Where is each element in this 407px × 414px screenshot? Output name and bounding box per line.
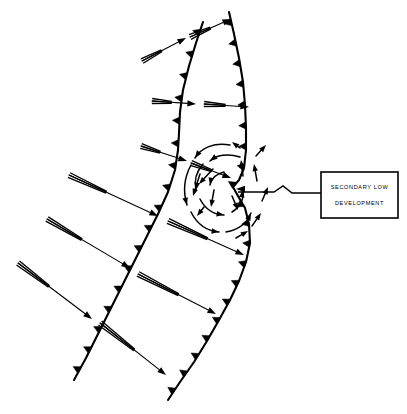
wind-arrow-head: [207, 307, 216, 314]
wind-arrow-head: [235, 249, 244, 255]
cold-front-barb: [172, 117, 179, 124]
callout-label-line1: SECONDARY LOW: [331, 184, 389, 190]
wind-arrow-tail-stroke: [18, 263, 49, 287]
wind-arrow-tail-stroke: [68, 177, 106, 193]
circ-arc-inner-top-head: [210, 154, 218, 161]
wind-arrow-9: [46, 217, 130, 268]
wind-arrow-tail-stroke: [138, 274, 179, 295]
wind-arrow-tail-stroke: [169, 219, 208, 238]
weather-front-canvas: SECONDARY LOW DEVELOPMENT: [0, 0, 407, 414]
circ-radial-4: [232, 196, 238, 210]
wind-arrow-tail-stroke: [137, 276, 178, 295]
wind-arrow-8: [167, 219, 244, 255]
cold-front-barb: [175, 95, 183, 102]
circ-arc-inner-upper-left-head: [209, 177, 215, 185]
circ-radial-2-head: [193, 188, 198, 196]
wind-arrow-head: [149, 210, 158, 216]
circ-radial-6: [253, 164, 258, 181]
cold-front-barb: [229, 39, 237, 46]
circ-radial-11: [232, 142, 240, 148]
circ-radial-3-shaft: [212, 190, 214, 200]
weather-diagram: SECONDARY LOW DEVELOPMENT: [0, 0, 407, 414]
wind-arrow-11: [16, 261, 92, 319]
circ-radial-8-head: [255, 213, 261, 220]
circ-arc-outer-bottomleft-head: [211, 228, 219, 234]
callout-pointer-line: [238, 186, 321, 193]
wind-arrow-tail-stroke: [20, 261, 50, 286]
circ-arc-outer-topleft: [195, 144, 230, 158]
wind-arrow-tail-stroke: [47, 219, 82, 240]
cold-front-barb: [239, 122, 246, 129]
wind-arrow-head: [187, 100, 196, 106]
circ-radial-12: [197, 207, 204, 216]
cold-front-barb: [243, 240, 251, 247]
circ-radial-7-shaft: [262, 194, 265, 201]
wind-arrow-tail-stroke: [16, 265, 48, 287]
wind-arrow-tail-stroke: [98, 325, 133, 351]
wind-arrow-tail-stroke: [48, 217, 82, 239]
wind-arrow-head: [121, 261, 130, 268]
cold-front-barb: [171, 140, 178, 147]
wind-arrow-1: [141, 38, 186, 63]
circ-arc-outer-left-head: [182, 197, 187, 205]
circ-radial-4-shaft: [232, 196, 235, 203]
wind-arrow-tail-stroke: [46, 221, 82, 240]
circ-radial-6-head: [253, 164, 258, 172]
circ-radial-6-shaft: [255, 171, 257, 181]
wind-arrow-head: [157, 367, 166, 375]
circ-radial-8: [252, 213, 261, 226]
wind-arrow-head: [83, 311, 92, 319]
circ-radial-8-shaft: [252, 219, 257, 226]
circ-radial-9-shaft: [236, 235, 242, 238]
wind-arrow-10: [137, 272, 216, 314]
callout-box-border: [321, 172, 398, 218]
circ-radial-3-head: [210, 199, 215, 207]
circ-radial-10-shaft: [256, 150, 261, 156]
front-lines-group: [73, 12, 250, 400]
wind-arrow-tail-stroke: [102, 321, 135, 349]
cold-front-barb: [169, 162, 177, 169]
circ-radial-12-shaft: [201, 207, 204, 210]
wind-arrow-5: [140, 144, 187, 162]
wind-arrow-tail-stroke: [70, 173, 107, 192]
secondary-low-callout: SECONDARY LOW DEVELOPMENT: [236, 172, 398, 218]
secondary-low-circulation-group: [182, 142, 268, 238]
wind-arrow-head: [178, 155, 187, 161]
circ-radial-7: [262, 187, 268, 201]
wind-arrow-head: [177, 38, 186, 45]
callout-label-line2: DEVELOPMENT: [335, 200, 384, 206]
wind-streamline-arrows-group: [16, 19, 249, 375]
circ-radial-9: [236, 231, 248, 238]
cold-front-barb: [236, 80, 244, 87]
circ-radial-9-head: [240, 231, 248, 237]
cold-front-barb: [239, 143, 246, 150]
wind-arrow-tail-stroke: [69, 175, 106, 192]
wind-arrow-3: [152, 99, 196, 107]
cold-front-barb: [233, 59, 241, 66]
wind-arrow-7: [68, 173, 158, 216]
circ-radial-3: [210, 190, 215, 207]
wind-arrow-tail-stroke: [139, 272, 179, 294]
circ-radial-7-head: [263, 187, 268, 195]
wind-arrow-2: [189, 19, 231, 39]
circ-radial-10: [256, 145, 266, 156]
wind-arrow-12: [98, 321, 166, 375]
circ-arc-outer-bottomleft: [191, 212, 219, 232]
wind-arrow-tail-stroke: [100, 323, 134, 350]
callout-pointer-arrowhead: [236, 186, 245, 192]
wind-arrow-tail-stroke: [142, 51, 162, 61]
wind-arrow-tail-stroke: [168, 221, 208, 239]
